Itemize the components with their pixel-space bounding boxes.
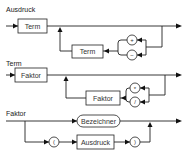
- rule-label-ausdruck: Ausdruck: [6, 6, 36, 13]
- box-label: Term: [25, 23, 41, 30]
- arrow-left-icon: [140, 86, 145, 91]
- arrow-up-icon: [58, 27, 63, 32]
- nonterminal-term: Term: [18, 19, 47, 33]
- arrow-right-icon: [176, 73, 182, 78]
- box-label: Ausdruck: [81, 139, 111, 146]
- arrow-left-icon: [137, 53, 142, 58]
- terminal-plus: +: [127, 35, 137, 45]
- syntax-diagram: Ausdruck Term Term + −: [0, 0, 183, 157]
- svg-text:−: −: [130, 52, 134, 58]
- arrow-right-icon: [72, 140, 77, 145]
- rule-label-term: Term: [6, 60, 22, 67]
- arrow-right-icon: [44, 140, 49, 145]
- arrow-right-icon: [125, 140, 130, 145]
- box-label: Faktor: [21, 72, 42, 79]
- nonterminal-term-loop: Term: [72, 45, 103, 58]
- rule-ausdruck: Ausdruck Term Term + −: [6, 6, 182, 60]
- rule-term: Term Faktor Faktor * /: [6, 60, 182, 107]
- terminal-divide: /: [130, 97, 140, 107]
- nonterminal-faktor: Faktor: [15, 68, 47, 82]
- arrow-left-icon: [137, 38, 142, 43]
- arrow-right-icon: [176, 119, 182, 124]
- svg-text:(: (: [53, 139, 55, 145]
- arrow-up-icon: [64, 76, 69, 81]
- rule-faktor: Faktor Bezeichner ( Ausdruck ): [6, 110, 182, 149]
- box-label: Bezeichner: [81, 118, 117, 125]
- arrow-right-icon: [13, 24, 18, 29]
- arrow-right-icon: [72, 119, 77, 124]
- arrow-right-icon: [10, 73, 15, 78]
- svg-text:+: +: [130, 37, 134, 43]
- arrow-left-icon: [104, 49, 109, 54]
- arrow-up-icon: [148, 122, 153, 127]
- arrow-left-icon: [140, 100, 145, 105]
- terminal-multiply: *: [130, 83, 140, 93]
- svg-text:): ): [134, 139, 136, 145]
- rule-label-faktor: Faktor: [6, 110, 27, 117]
- nonterminal-faktor-loop: Faktor: [86, 91, 120, 105]
- terminal-close-paren: ): [130, 137, 140, 147]
- arrow-left-icon: [121, 96, 126, 101]
- arrow-right-icon: [176, 24, 182, 29]
- terminal-open-paren: (: [49, 137, 59, 147]
- box-label: Term: [80, 48, 96, 55]
- terminal-bezeichner: Bezeichner: [77, 115, 120, 127]
- terminal-minus: −: [127, 50, 137, 60]
- nonterminal-ausdruck: Ausdruck: [77, 135, 114, 149]
- box-label: Faktor: [93, 95, 114, 102]
